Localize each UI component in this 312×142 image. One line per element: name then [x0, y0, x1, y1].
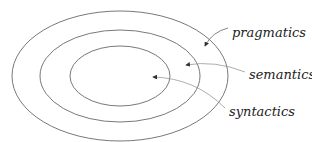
semantics-label: semantics: [249, 67, 312, 82]
pragmatics-ring: [12, 11, 228, 141]
syntactics-ring: [70, 46, 170, 106]
semantics-ring: [40, 30, 200, 122]
semiotics-diagram: pragmatics semantics syntactics: [0, 0, 312, 142]
semantics-arrow: [186, 64, 245, 72]
syntactics-arrow: [153, 77, 225, 108]
pragmatics-arrow: [205, 28, 228, 46]
pragmatics-label: pragmatics: [232, 25, 306, 40]
syntactics-label: syntactics: [229, 104, 295, 119]
